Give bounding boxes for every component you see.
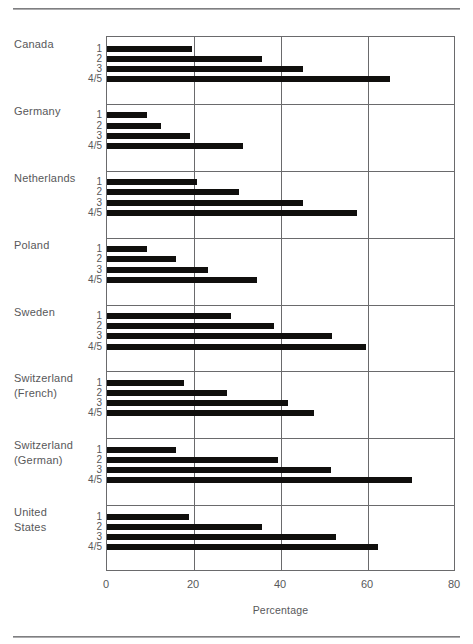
group-separator — [107, 104, 454, 105]
gridline-x-40 — [281, 37, 282, 570]
category-tick-label: 2 — [76, 254, 102, 264]
bar — [107, 246, 147, 252]
bar — [107, 189, 239, 195]
group-label: (French) — [14, 386, 57, 400]
bar — [107, 524, 262, 530]
group-separator — [107, 238, 454, 239]
bar — [107, 133, 190, 139]
bar — [107, 267, 208, 273]
gridline-x-60 — [368, 37, 369, 570]
group-label: Netherlands — [14, 171, 76, 185]
bar — [107, 76, 390, 82]
bar — [107, 210, 357, 216]
group-label: States — [14, 520, 46, 534]
bar — [107, 46, 192, 52]
category-tick-layer: 1234/51234/51234/51234/51234/51234/51234… — [72, 0, 102, 644]
x-tick-label-0: 0 — [86, 578, 126, 590]
bar — [107, 544, 378, 550]
figure-container: CanadaGermanyNetherlandsPolandSwedenSwit… — [0, 0, 473, 644]
gridline-x-20 — [194, 37, 195, 570]
bar — [107, 380, 184, 386]
bar — [107, 447, 176, 453]
category-tick-label: 4/5 — [76, 141, 102, 151]
bar — [107, 467, 331, 473]
bar — [107, 112, 147, 118]
bar — [107, 277, 257, 283]
bar — [107, 123, 161, 129]
group-label: Germany — [14, 104, 61, 118]
bar — [107, 477, 412, 483]
bar — [107, 323, 274, 329]
group-label: Poland — [14, 238, 49, 252]
category-tick-label: 4/5 — [76, 74, 102, 84]
group-label: Sweden — [14, 305, 55, 319]
bar — [107, 256, 176, 262]
group-separator — [107, 305, 454, 306]
category-tick-label: 2 — [76, 187, 102, 197]
x-tick-label-80: 80 — [434, 578, 473, 590]
category-tick-label: 4/5 — [76, 475, 102, 485]
bar — [107, 333, 332, 339]
bar — [107, 534, 336, 540]
x-tick-label-20: 20 — [173, 578, 213, 590]
category-tick-label: 3 — [76, 331, 102, 341]
bar — [107, 457, 278, 463]
category-tick-label: 4/5 — [76, 342, 102, 352]
bar — [107, 390, 227, 396]
bar — [107, 179, 197, 185]
group-separator — [107, 505, 454, 506]
group-separator — [107, 438, 454, 439]
category-tick-label: 4/5 — [76, 542, 102, 552]
bar — [107, 200, 303, 206]
bar — [107, 410, 314, 416]
category-tick-label: 4/5 — [76, 275, 102, 285]
bar — [107, 514, 189, 520]
category-tick-label: 4/5 — [76, 408, 102, 418]
bar — [107, 56, 262, 62]
group-label: United — [14, 505, 47, 519]
group-label: Canada — [14, 37, 54, 51]
bar — [107, 313, 231, 319]
plot-area — [106, 36, 455, 571]
category-tick-label: 4/5 — [76, 208, 102, 218]
group-label: (German) — [14, 453, 63, 467]
group-separator — [107, 371, 454, 372]
x-tick-label-60: 60 — [347, 578, 387, 590]
category-tick-label: 1 — [76, 44, 102, 54]
group-label: Switzerland — [14, 438, 73, 452]
bar — [107, 143, 243, 149]
bar — [107, 400, 288, 406]
bar — [107, 66, 303, 72]
bar — [107, 344, 366, 350]
x-tick-label-40: 40 — [260, 578, 300, 590]
group-separator — [107, 171, 454, 172]
x-axis-title: Percentage — [106, 604, 455, 616]
group-label: Switzerland — [14, 371, 73, 385]
category-tick-label: 1 — [76, 110, 102, 120]
